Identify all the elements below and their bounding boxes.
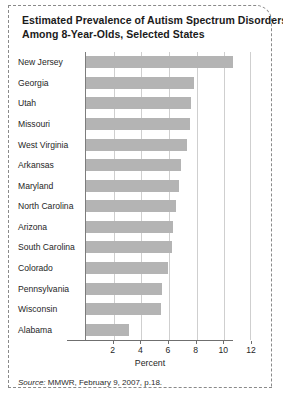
x-tick [196,341,197,344]
gridline [224,52,225,340]
x-tick-label: 2 [103,345,123,355]
bar [86,139,187,151]
category-label: Missouri [18,119,85,129]
chart-title-line-1: Estimated Prevalence of Autism Spectrum … [22,14,260,28]
category-label: Utah [18,98,85,108]
bar [86,180,179,192]
x-tick-label: 6 [158,345,178,355]
bar [86,283,162,295]
gridline [114,52,115,340]
gridline [169,52,170,340]
chart-title-line-2: Among 8-Year-Olds, Selected States [22,28,260,42]
chart-title: Estimated Prevalence of Autism Spectrum … [22,14,260,41]
category-label: Alabama [18,325,85,335]
x-tick [168,341,169,344]
x-tick [140,341,141,344]
x-tick-label: 12 [241,345,261,355]
x-tick [113,341,114,344]
bar [86,159,181,171]
gridline [141,52,142,340]
category-label: New Jersey [18,57,85,67]
chart-figure: Estimated Prevalence of Autism Spectrum … [0,0,283,397]
gridline [197,52,198,340]
bar [86,303,161,315]
source-text: MMWR, February 9, 2007, p.18. [48,378,162,387]
bar [86,200,176,212]
bar [86,97,191,109]
bar [86,262,168,274]
bar [86,221,173,233]
category-label: North Carolina [18,201,85,211]
category-axis-labels: New JerseyGeorgiaUtahMissouriWest Virgin… [18,52,85,340]
plot-area: New JerseyGeorgiaUtahMissouriWest Virgin… [18,52,263,340]
category-label: South Carolina [18,242,85,252]
x-tick-label: 10 [213,345,233,355]
category-label: West Virginia [18,140,85,150]
bar [86,241,172,253]
x-axis-title: Percent [67,358,233,368]
bar [86,324,129,336]
x-axis-line [67,340,233,341]
x-tick-label: 8 [186,345,206,355]
category-label: Georgia [18,78,85,88]
x-tick [251,341,252,344]
category-label: Colorado [18,263,85,273]
category-label: Maryland [18,181,85,191]
source-label: Source: [18,378,46,387]
bar [86,56,233,68]
category-label: Pennsylvania [18,284,85,294]
category-label: Arkansas [18,160,85,170]
category-label: Arizona [18,222,85,232]
source-note: Source: MMWR, February 9, 2007, p.18. [18,378,162,387]
bar [86,77,194,89]
x-tick [223,341,224,344]
category-label: Wisconsin [18,304,85,314]
bars-panel [85,52,251,340]
x-tick-label: 4 [130,345,150,355]
bar [86,118,190,130]
